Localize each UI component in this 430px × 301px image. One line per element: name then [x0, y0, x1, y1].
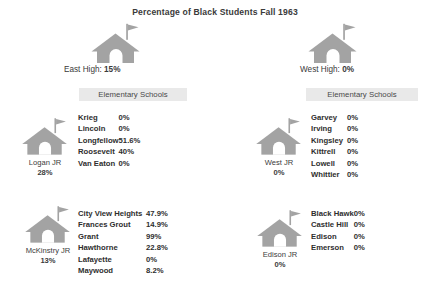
- school-name: Kittrell: [311, 146, 347, 157]
- west-high-name: West High:: [300, 65, 342, 74]
- edison-jr-name: Edison JR: [249, 250, 311, 260]
- edison-jr-node: Edison JR 0%: [249, 209, 311, 270]
- school-value: 99%: [146, 231, 168, 242]
- school-name: Lowell: [311, 158, 347, 169]
- school-value: 0%: [119, 123, 141, 134]
- list-item: Black Hawk 0%: [311, 208, 365, 219]
- school-name: Frances Grout: [78, 219, 146, 230]
- school-name: Black Hawk: [311, 208, 354, 219]
- school-value: 22.8%: [146, 242, 168, 253]
- school-name: Edison: [311, 231, 354, 242]
- edison-jr-value: 0%: [249, 260, 311, 270]
- east-high-value: 15%: [104, 65, 120, 74]
- school-name: Hawthorne: [78, 242, 146, 253]
- school-value: 0%: [347, 112, 358, 123]
- elementary-schools-header-left: Elementary Schools: [79, 88, 187, 101]
- list-item: Irving 0%: [311, 123, 358, 134]
- school-name: Kingsley: [311, 135, 347, 146]
- school-name: City View Heights: [78, 208, 146, 219]
- west-high-value: 0%: [342, 65, 354, 74]
- schoolhouse-icon: [22, 205, 79, 245]
- school-value: 0%: [347, 123, 358, 134]
- schoolhouse-icon: [253, 117, 305, 157]
- schoolhouse-icon: [305, 23, 361, 65]
- list-item: Frances Grout 14.9%: [78, 219, 168, 230]
- list-item: Roosevelt 40%: [78, 146, 140, 157]
- list-item: Whittier 0%: [311, 169, 358, 180]
- list-item: Krieg 0%: [78, 112, 140, 123]
- list-item: Kingsley 0%: [311, 135, 358, 146]
- mckinstry-jr-value: 13%: [17, 256, 79, 266]
- east-high-node: [88, 23, 144, 65]
- list-item: Hawthorne 22.8%: [78, 242, 168, 253]
- school-name: Roosevelt: [78, 146, 119, 157]
- school-value: 0%: [119, 112, 141, 123]
- elementary-schools-header-right: Elementary Schools: [306, 88, 418, 101]
- school-name: Lafayette: [78, 254, 146, 265]
- list-item: Edison 0%: [311, 231, 365, 242]
- list-item: Kittrell 0%: [311, 146, 358, 157]
- west-jr-name: West JR: [253, 158, 305, 168]
- school-value: 8.2%: [146, 265, 168, 276]
- west-jr-elementary-list: Garvey 0% Irving 0% Kingsley 0% Kittrell…: [311, 112, 358, 180]
- west-jr-value: 0%: [253, 168, 305, 178]
- school-name: Garvey: [311, 112, 347, 123]
- school-name: Van Eaton: [78, 158, 119, 169]
- logan-elementary-list: Krieg 0% Lincoln 0% Longfellow 51.6% Roo…: [78, 112, 140, 169]
- list-item: Lowell 0%: [311, 158, 358, 169]
- school-value: 0%: [347, 169, 358, 180]
- list-item: Longfellow 51.6%: [78, 135, 140, 146]
- school-name: Longfellow: [78, 135, 119, 146]
- list-item: Castle Hill 0%: [311, 219, 365, 230]
- school-name: Irving: [311, 123, 347, 134]
- page-title: Percentage of Black Students Fall 1963: [0, 7, 430, 17]
- school-name: Maywood: [78, 265, 146, 276]
- school-name: Whittier: [311, 169, 347, 180]
- list-item: Lincoln 0%: [78, 123, 140, 134]
- school-value: 0%: [354, 231, 365, 242]
- list-item: Lafayette 0%: [78, 254, 168, 265]
- school-value: 14.9%: [146, 219, 168, 230]
- chart-canvas: Percentage of Black Students Fall 1963 E…: [0, 0, 430, 301]
- school-value: 0%: [347, 158, 358, 169]
- school-value: 40%: [119, 146, 141, 157]
- school-value: 0%: [146, 254, 168, 265]
- logan-jr-node: Logan JR 28%: [19, 117, 71, 178]
- school-value: 0%: [354, 208, 365, 219]
- school-value: 0%: [347, 135, 358, 146]
- logan-jr-name: Logan JR: [19, 158, 71, 168]
- east-high-name: East High:: [64, 65, 104, 74]
- list-item: Van Eaton 0%: [78, 158, 140, 169]
- logan-jr-value: 28%: [19, 168, 71, 178]
- schoolhouse-icon: [88, 23, 144, 65]
- school-name: Castle Hill: [311, 219, 354, 230]
- school-value: 47.9%: [146, 208, 168, 219]
- east-high-label: East High: 15%: [64, 65, 120, 74]
- schoolhouse-icon: [254, 209, 311, 249]
- list-item: Garvey 0%: [311, 112, 358, 123]
- list-item: Maywood 8.2%: [78, 265, 168, 276]
- list-item: Grant 99%: [78, 231, 168, 242]
- school-name: Lincoln: [78, 123, 119, 134]
- school-value: 51.6%: [119, 135, 141, 146]
- mckinstry-jr-node: McKinstry JR 13%: [17, 205, 79, 266]
- list-item: Emerson 0%: [311, 242, 365, 253]
- mckinstry-elementary-list: City View Heights 47.9% Frances Grout 14…: [78, 208, 168, 276]
- school-value: 0%: [354, 219, 365, 230]
- edison-elementary-list: Black Hawk 0% Castle Hill 0% Edison 0% E…: [311, 208, 365, 254]
- list-item: City View Heights 47.9%: [78, 208, 168, 219]
- school-name: Krieg: [78, 112, 119, 123]
- school-name: Grant: [78, 231, 146, 242]
- school-value: 0%: [347, 146, 358, 157]
- mckinstry-jr-name: McKinstry JR: [17, 246, 79, 256]
- west-high-node: [305, 23, 361, 65]
- west-high-label: West High: 0%: [300, 65, 354, 74]
- schoolhouse-icon: [19, 117, 71, 157]
- school-value: 0%: [119, 158, 141, 169]
- school-value: 0%: [354, 242, 365, 253]
- school-name: Emerson: [311, 242, 354, 253]
- west-jr-node: West JR 0%: [253, 117, 305, 178]
